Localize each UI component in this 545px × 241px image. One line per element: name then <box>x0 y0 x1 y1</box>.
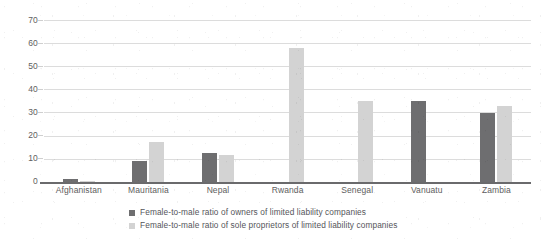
y-tick-label-20: 20 <box>4 131 38 140</box>
legend-swatch-icon-owners <box>129 210 135 216</box>
bar-senegal-proprietors <box>358 101 373 182</box>
legend-label-proprietors: Female-to-male ratio of sole proprietors… <box>140 221 398 230</box>
x-label-zambia: Zambia <box>462 186 532 195</box>
y-tick-mark-70 <box>38 20 43 21</box>
x-label-senegal: Senegal <box>322 186 392 195</box>
bar-group-senegal <box>322 20 392 182</box>
legend-item-owners[interactable]: Female-to-male ratio of owners of limite… <box>129 207 429 218</box>
y-axis: 70 60 50 40 30 20 10 0 <box>0 20 38 182</box>
y-tick-label-50: 50 <box>4 62 38 71</box>
y-tick-mark-20 <box>38 135 43 136</box>
y-tick-label-40: 40 <box>4 85 38 94</box>
bar-group-zambia <box>462 20 532 182</box>
legend-item-proprietors[interactable]: Female-to-male ratio of sole proprietors… <box>129 220 429 231</box>
x-label-afghanistan: Afghanistan <box>44 186 114 195</box>
x-label-vanuatu: Vanuatu <box>392 186 462 195</box>
bar-group-vanuatu <box>392 20 462 182</box>
y-tick-mark-50 <box>38 66 43 67</box>
y-tick-label-30: 30 <box>4 108 38 117</box>
bar-mauritania-owners <box>132 161 147 182</box>
x-label-nepal: Nepal <box>183 186 253 195</box>
y-tick-label-0: 0 <box>4 177 38 186</box>
x-label-mauritania: Mauritania <box>114 186 184 195</box>
y-tick-label-60: 60 <box>4 39 38 48</box>
y-tick-mark-30 <box>38 112 43 113</box>
bar-rwanda-proprietors <box>289 48 304 182</box>
bar-nepal-proprietors <box>219 155 234 182</box>
legend-swatch-icon-proprietors <box>129 223 135 229</box>
chart-legend: Female-to-male ratio of owners of limite… <box>129 207 429 233</box>
bar-nepal-owners <box>202 153 217 182</box>
plot-area <box>44 20 531 182</box>
y-tick-mark-10 <box>38 158 43 159</box>
bar-mauritania-proprietors <box>149 142 164 183</box>
bar-zambia-proprietors <box>497 106 512 182</box>
bar-zambia-owners <box>480 113 495 182</box>
y-tick-label-10: 10 <box>4 154 38 163</box>
bar-group-nepal <box>183 20 253 182</box>
bar-group-mauritania <box>114 20 184 182</box>
y-tick-label-70: 70 <box>4 16 38 25</box>
x-label-rwanda: Rwanda <box>253 186 323 195</box>
bar-group-afghanistan <box>44 20 114 182</box>
bar-chart: 70 60 50 40 30 20 10 0 <box>0 0 545 200</box>
y-tick-mark-60 <box>38 43 43 44</box>
x-axis-baseline <box>40 182 531 184</box>
bar-group-rwanda <box>253 20 323 182</box>
y-tick-mark-40 <box>38 89 43 90</box>
bar-vanuatu-owners <box>411 101 426 182</box>
legend-label-owners: Female-to-male ratio of owners of limite… <box>140 208 366 217</box>
